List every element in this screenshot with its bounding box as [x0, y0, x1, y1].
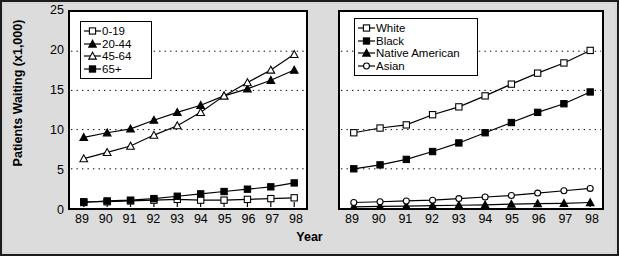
legend-marker-icon: [84, 63, 101, 75]
data-point-marker: [127, 125, 135, 132]
x-tick-label: 89: [341, 212, 363, 226]
x-tick-label: 91: [394, 212, 416, 226]
series-line: [84, 70, 294, 137]
data-point-marker: [363, 38, 369, 44]
data-point-marker: [364, 63, 370, 69]
legend-marker-icon: [358, 35, 375, 47]
series-line: [354, 92, 590, 169]
data-point-marker: [197, 109, 205, 116]
data-point-marker: [456, 196, 462, 202]
legend-marker-icon: [358, 60, 375, 72]
data-point-marker: [587, 89, 593, 95]
x-axis-tick-labels-right: 89909192939495969798: [338, 212, 604, 228]
data-point-marker: [267, 76, 275, 83]
chart-panel-left: 0-1920-4445-6465+: [68, 10, 308, 210]
data-point-marker: [377, 125, 383, 131]
x-tick-label: 93: [166, 212, 188, 226]
data-point-marker: [482, 194, 488, 200]
data-point-marker: [377, 162, 383, 168]
data-point-marker: [508, 192, 514, 198]
data-point-marker: [429, 148, 435, 154]
legend-marker-icon: [84, 50, 101, 62]
x-tick-label: 98: [581, 212, 603, 226]
data-point-marker: [291, 195, 297, 201]
y-tick-label: 0: [36, 204, 64, 216]
data-point-marker: [456, 104, 462, 110]
data-point-marker: [535, 190, 541, 196]
x-tick-label: 97: [261, 212, 283, 226]
legend-marker-icon: [358, 47, 375, 59]
series-line: [354, 188, 590, 202]
data-point-marker: [351, 130, 357, 136]
data-point-marker: [244, 79, 252, 86]
data-point-marker: [363, 25, 369, 31]
legend-item-label: 65+: [101, 63, 122, 76]
data-point-marker: [377, 199, 383, 205]
data-point-marker: [89, 28, 95, 34]
data-point-marker: [150, 131, 158, 138]
x-tick-label: 94: [190, 212, 212, 226]
data-point-marker: [430, 197, 436, 203]
data-point-marker: [535, 70, 541, 76]
x-tick-label: 95: [501, 212, 523, 226]
x-tick-label: 95: [214, 212, 236, 226]
legend-item: 20-44: [84, 38, 146, 51]
y-axis-title-container: Patients Waiting (x1,000): [6, 8, 34, 208]
legend-item: Native American: [358, 47, 472, 60]
data-point-marker: [198, 191, 204, 197]
data-point-marker: [104, 198, 110, 204]
data-point-marker: [267, 66, 275, 73]
x-axis-tick-labels-left: 89909192939495969798: [68, 212, 308, 228]
data-point-marker: [197, 101, 205, 108]
series-native-american: [350, 199, 594, 208]
legend-item-label: 20-44: [101, 38, 131, 51]
data-point-marker: [221, 188, 227, 194]
data-point-marker: [403, 198, 409, 204]
legend-item: Black: [358, 35, 472, 48]
data-point-marker: [587, 185, 593, 191]
data-point-marker: [127, 197, 133, 203]
series-line: [354, 203, 590, 207]
legend-right: WhiteBlackNative AmericanAsian: [354, 18, 478, 76]
series-0-19: [81, 195, 298, 205]
data-point-marker: [268, 195, 274, 201]
data-point-marker: [268, 184, 274, 190]
data-point-marker: [198, 197, 204, 203]
data-point-marker: [403, 156, 409, 162]
legend-item-label: 45-64: [101, 50, 131, 63]
x-tick-label: 97: [554, 212, 576, 226]
data-point-marker: [221, 197, 227, 203]
legend-item: 45-64: [84, 50, 146, 63]
data-point-marker: [587, 47, 593, 53]
data-point-marker: [89, 66, 95, 72]
x-tick-label: 90: [368, 212, 390, 226]
series-asian: [351, 185, 593, 205]
x-tick-label: 98: [285, 212, 307, 226]
chart-panel-right: WhiteBlackNative AmericanAsian: [338, 10, 604, 210]
data-point-marker: [561, 60, 567, 66]
x-tick-label: 90: [95, 212, 117, 226]
x-tick-label: 92: [142, 212, 164, 226]
data-point-marker: [482, 93, 488, 99]
legend-marker-icon: [84, 38, 101, 50]
data-point-marker: [561, 101, 567, 107]
figure-frame: Patients Waiting (x1,000) 0510152025 0-1…: [0, 0, 619, 256]
y-tick-label: 5: [36, 164, 64, 176]
legend-marker-icon: [358, 22, 375, 34]
x-tick-label: 93: [448, 212, 470, 226]
data-point-marker: [244, 196, 250, 202]
legend-item-label: Native American: [375, 47, 460, 60]
y-tick-label: 15: [36, 84, 64, 96]
legend-item: White: [358, 22, 472, 35]
data-point-marker: [244, 186, 250, 192]
data-point-marker: [403, 122, 409, 128]
x-tick-label: 96: [528, 212, 550, 226]
legend-item-label: White: [375, 22, 405, 35]
y-tick-label: 10: [36, 124, 64, 136]
legend-item: Asian: [358, 60, 472, 73]
legend-left: 0-1920-4445-6465+: [80, 21, 152, 79]
y-axis-tick-labels: 0510152025: [34, 10, 64, 210]
data-point-marker: [173, 122, 181, 129]
x-tick-label: 92: [421, 212, 443, 226]
data-point-marker: [291, 180, 297, 186]
